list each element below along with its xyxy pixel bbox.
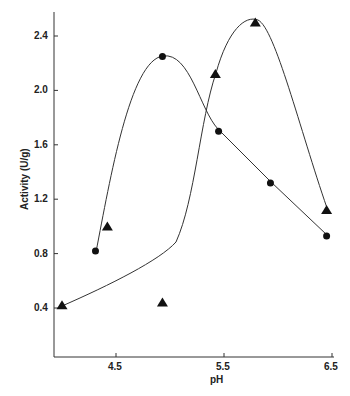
x-axis-label: pH bbox=[210, 374, 223, 385]
y-tick-label: 1.2 bbox=[34, 193, 48, 204]
y-axis-label: Activity (U/g) bbox=[19, 148, 30, 210]
y-ticks bbox=[54, 36, 58, 308]
y-tick-label: 0.8 bbox=[34, 248, 48, 259]
triangle-marker bbox=[102, 221, 113, 230]
circle-series-curve bbox=[96, 56, 327, 252]
y-tick-label: 2.4 bbox=[34, 30, 48, 41]
triangle-marker bbox=[157, 298, 168, 307]
triangle-marker bbox=[210, 69, 221, 78]
y-tick-label: 0.4 bbox=[34, 302, 48, 313]
circle-marker bbox=[267, 179, 274, 186]
triangle-series-curve bbox=[62, 19, 327, 306]
circle-marker bbox=[92, 247, 99, 254]
x-tick-label: 6.5 bbox=[324, 361, 338, 372]
circle-marker bbox=[215, 128, 222, 135]
x-tick-label: 5.5 bbox=[216, 361, 230, 372]
markers bbox=[57, 17, 333, 309]
plot-area bbox=[0, 0, 350, 396]
chart: 0.40.81.21.62.02.44.55.56.5 Activity (U/… bbox=[0, 0, 350, 396]
y-tick-label: 1.6 bbox=[34, 139, 48, 150]
x-tick-label: 4.5 bbox=[108, 361, 122, 372]
x-ticks bbox=[116, 353, 332, 357]
circle-marker bbox=[323, 232, 330, 239]
y-tick-label: 2.0 bbox=[34, 84, 48, 95]
circle-marker bbox=[159, 53, 166, 60]
triangle-marker bbox=[321, 205, 332, 214]
